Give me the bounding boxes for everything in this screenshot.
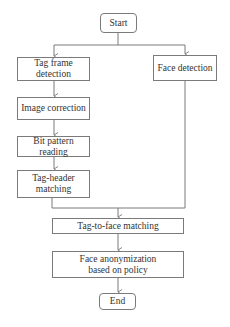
image-correction-node: Image correction xyxy=(17,97,90,120)
face-detection-label: Face detection xyxy=(157,63,212,74)
tag-header-matching-label: Tag-header matching xyxy=(18,173,89,195)
start-label: Start xyxy=(110,18,128,29)
tag-frame-detection-node: Tag frame detection xyxy=(17,57,90,81)
bit-pattern-reading-node: Bit pattern reading xyxy=(17,136,90,157)
face-anonymization-node: Face anonymization based on policy xyxy=(52,251,184,278)
tag-frame-detection-label: Tag frame detection xyxy=(18,58,89,80)
bit-pattern-reading-label: Bit pattern reading xyxy=(18,136,89,158)
end-node: End xyxy=(99,293,136,310)
face-anonymization-label: Face anonymization based on policy xyxy=(77,254,159,276)
image-correction-label: Image correction xyxy=(21,103,86,114)
face-detection-node: Face detection xyxy=(153,55,217,81)
tag-to-face-matching-label: Tag-to-face matching xyxy=(77,221,158,232)
tag-header-matching-node: Tag-header matching xyxy=(17,170,90,198)
end-label: End xyxy=(110,296,125,307)
tag-to-face-matching-node: Tag-to-face matching xyxy=(52,218,184,234)
start-node: Start xyxy=(100,13,137,33)
